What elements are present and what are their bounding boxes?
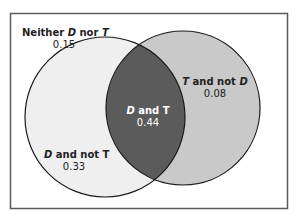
region-d-not-t-label: D and not T 0.33: [44, 149, 104, 173]
region-neither-value: 0.15: [22, 39, 106, 51]
region-neither-label: Neither D nor T 0.15: [22, 27, 106, 51]
region-d-and-t-label: D and T 0.44: [118, 105, 178, 129]
region-t-not-d-label: T and not D 0.08: [182, 76, 248, 100]
region-t-not-d-value: 0.08: [182, 88, 248, 100]
region-d-and-t-value: 0.44: [118, 117, 178, 129]
region-d-not-t-value: 0.33: [44, 161, 104, 173]
